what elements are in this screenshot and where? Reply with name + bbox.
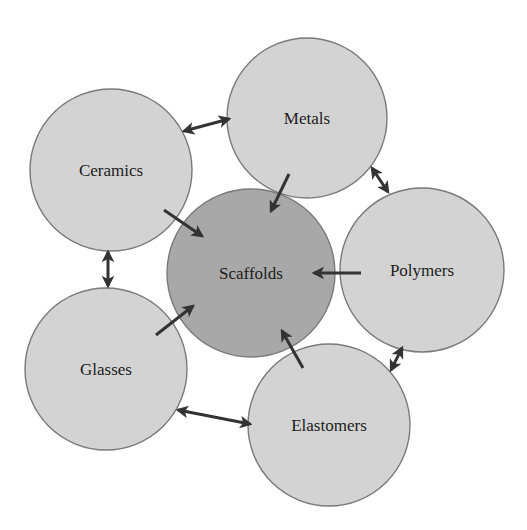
materials-scaffolds-diagram: MetalsCeramicsPolymersGlassesElastomersS… bbox=[0, 0, 527, 530]
node-polymers-label: Polymers bbox=[390, 261, 454, 280]
node-metals-label: Metals bbox=[284, 109, 330, 128]
node-scaffolds-label: Scaffolds bbox=[219, 264, 283, 283]
double-arrow-polymers-elastomers-icon bbox=[391, 348, 402, 370]
node-glasses-label: Glasses bbox=[80, 360, 132, 379]
double-arrow-ceramics-metals-icon bbox=[184, 119, 229, 131]
node-elastomers-label: Elastomers bbox=[291, 416, 367, 435]
node-ceramics-label: Ceramics bbox=[79, 161, 143, 180]
double-arrow-metals-polymers-icon bbox=[372, 168, 388, 192]
double-arrow-glasses-elastomers-icon bbox=[178, 410, 250, 424]
